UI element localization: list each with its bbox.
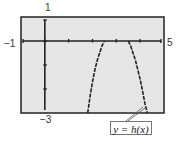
plot-frame — [21, 17, 164, 113]
ymin-label: −3 — [40, 115, 51, 125]
function-label-box: y = h(x) — [110, 121, 152, 135]
xmin-label: −1 — [4, 39, 15, 49]
xmax-label: 5 — [167, 38, 173, 48]
ymax-label: 1 — [45, 3, 51, 13]
